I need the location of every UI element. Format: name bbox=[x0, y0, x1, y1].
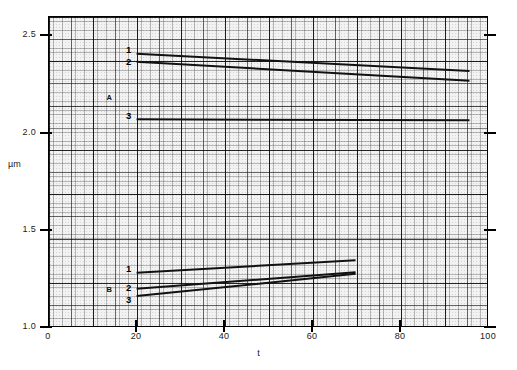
y-tick bbox=[40, 34, 52, 36]
curve-layer bbox=[49, 17, 487, 326]
curve-a3 bbox=[137, 119, 470, 120]
x-tick-label: 40 bbox=[204, 331, 244, 341]
y-axis-title: µm bbox=[8, 159, 21, 169]
group-label-b: B bbox=[107, 285, 112, 294]
y-tick bbox=[40, 132, 52, 134]
y-tick-label: 1.0 bbox=[0, 321, 36, 331]
curve-label-a3: 3 bbox=[126, 111, 131, 121]
curve-a2 bbox=[137, 62, 470, 81]
y-tick-label: 1.5 bbox=[0, 224, 36, 234]
y-tick bbox=[40, 229, 52, 231]
x-tick-label: 60 bbox=[292, 331, 332, 341]
x-tick-label: 20 bbox=[116, 331, 156, 341]
curve-label-b1: 1 bbox=[126, 264, 131, 274]
curve-b2 bbox=[137, 272, 356, 288]
curve-b1 bbox=[137, 260, 356, 272]
curve-label-b2: 2 bbox=[126, 283, 131, 293]
y-tick-label: 2.5 bbox=[0, 29, 36, 39]
curve-label-a2: 2 bbox=[126, 57, 131, 67]
curve-a1 bbox=[137, 54, 470, 71]
x-tick-label: 0 bbox=[28, 331, 68, 341]
y-tick bbox=[40, 326, 52, 328]
plot-area: 1 2 3 1 2 3 A B bbox=[48, 16, 488, 327]
x-axis-title: t bbox=[0, 348, 517, 358]
curve-label-b3: 3 bbox=[126, 295, 131, 305]
x-tick-label: 100 bbox=[468, 331, 508, 341]
y-tick-right bbox=[484, 326, 496, 328]
curve-b3 bbox=[137, 274, 356, 296]
y-tick-right bbox=[484, 132, 496, 134]
chart-figure: 1 2 3 1 2 3 A B 1.01.52.02.5 02040608010… bbox=[0, 0, 517, 370]
y-tick-right bbox=[484, 34, 496, 36]
y-tick-right bbox=[484, 229, 496, 231]
curve-label-a1: 1 bbox=[126, 45, 131, 55]
group-label-a: A bbox=[107, 93, 112, 102]
y-tick-label: 2.0 bbox=[0, 127, 36, 137]
x-tick-label: 80 bbox=[380, 331, 420, 341]
